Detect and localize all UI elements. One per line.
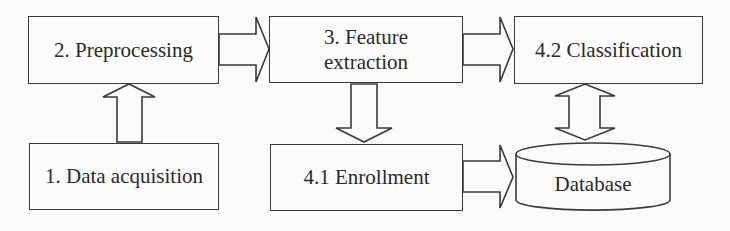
biometric-pipeline-diagram: 2. Preprocessing 1. Data acquisition 3. … — [0, 0, 730, 231]
arrow-down-icon — [336, 84, 392, 142]
node-enrollment: 4.1 Enrollment — [270, 144, 463, 211]
node-database-label: Database — [516, 172, 670, 197]
node-data-acquisition: 1. Data acquisition — [29, 143, 219, 210]
node-label: 2. Preprocessing — [54, 38, 193, 63]
node-label-line2: extraction — [324, 50, 408, 75]
arrow-right-icon — [219, 17, 269, 82]
arrow-right-icon — [463, 17, 513, 82]
node-preprocessing: 2. Preprocessing — [28, 16, 219, 84]
node-label-line1: 3. Feature — [324, 25, 408, 50]
node-label: 4.1 Enrollment — [304, 165, 430, 190]
arrow-up-icon — [103, 84, 155, 142]
node-label: 1. Data acquisition — [45, 164, 203, 189]
node-feature-extraction: 3. Feature extraction — [269, 16, 463, 83]
node-classification: 4.2 Classification — [514, 16, 703, 84]
node-label: 4.2 Classification — [535, 38, 682, 63]
arrow-bidirectional-icon — [555, 84, 615, 140]
arrow-right-icon — [463, 145, 513, 208]
